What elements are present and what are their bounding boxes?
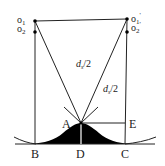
label-left-diagonal: ds/2 xyxy=(76,58,91,70)
label-D: D xyxy=(76,147,85,161)
right-vertical xyxy=(125,19,127,144)
label-A: A xyxy=(62,117,71,131)
point-o1 xyxy=(33,19,37,23)
label-E: E xyxy=(129,117,136,131)
point-o2p xyxy=(125,30,129,34)
filled-bump xyxy=(30,123,130,144)
left-arc xyxy=(14,137,36,144)
geometry-diagram: o1 o2 o1' o2' ds/2 ds/2 A E B D C xyxy=(0,0,165,166)
ray-right xyxy=(81,107,98,123)
right-arc xyxy=(125,137,156,144)
point-o1p xyxy=(125,17,129,21)
label-right-diagonal: ds/2 xyxy=(103,83,118,95)
point-o2 xyxy=(33,30,37,34)
label-o2p: o2' xyxy=(131,20,141,35)
point-A xyxy=(79,121,82,124)
top-line xyxy=(35,19,127,21)
label-C: C xyxy=(121,147,129,161)
right-diagonal xyxy=(81,19,127,123)
label-B: B xyxy=(31,147,39,161)
left-diagonal xyxy=(35,21,81,123)
